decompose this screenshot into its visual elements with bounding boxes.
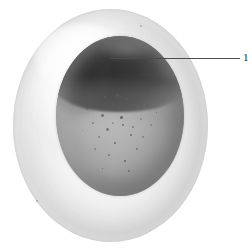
envelope-speck xyxy=(36,200,38,202)
callout-label-1: 1 xyxy=(243,51,249,64)
envelope-speck xyxy=(140,25,142,27)
callout-leader-line xyxy=(110,58,240,59)
embryo-body xyxy=(56,36,184,196)
embryo-micrograph xyxy=(0,0,252,251)
embryo-rim-shadow xyxy=(56,36,184,196)
figure-root: 1 xyxy=(0,0,252,251)
